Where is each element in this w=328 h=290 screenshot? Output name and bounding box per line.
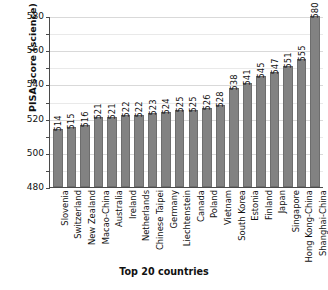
x-label-slot: Vietnam [213,190,227,258]
x-label-slot: Netherlands [132,190,146,258]
bar-value-label: 522 [121,97,130,123]
bar-value-label: 555 [297,40,306,66]
x-label-slot: Japan [268,190,282,258]
bar [216,105,225,187]
bar-slot: 521 [92,17,106,187]
y-axis-tick-label: 500 [18,149,44,158]
bar [53,129,62,187]
bar-slot: 547 [268,17,282,187]
bar-slot: 526 [200,17,214,187]
bar [175,110,184,187]
bar-value-label: 551 [284,47,293,73]
bar [148,113,157,187]
bar-value-label: 545 [256,57,265,83]
bar [229,88,238,187]
y-axis-tick-labels: 480500520540560580 [16,0,44,290]
bar [134,115,143,187]
bar-value-label: 525 [189,92,198,118]
bar-slot: 514 [51,17,65,187]
bar-slot: 541 [241,17,255,187]
bar-series: 5145155165215215225225235245255255265285… [50,17,323,187]
bar [161,112,170,187]
bar [310,16,319,187]
bar-value-label: 547 [270,54,279,80]
bar-value-label: 515 [67,109,76,135]
bar [270,72,279,187]
bar-slot: 524 [159,17,173,187]
y-axis-tick-label: 560 [18,46,44,55]
bar-slot: 555 [295,17,309,187]
bar-value-label: 516 [80,107,89,133]
bar [283,66,292,187]
bar-slot: 522 [119,17,133,187]
x-label-slot: New Zealand [77,190,91,258]
x-label-slot: Shanghai-China [308,190,322,258]
x-label-slot: Slovenia [50,190,64,258]
bar-slot: 528 [214,17,228,187]
bar-slot: 551 [281,17,295,187]
x-label-slot: Germany [159,190,173,258]
bar-slot: 525 [173,17,187,187]
bar-value-label: 523 [148,95,157,121]
bar [67,127,76,187]
x-label-slot: Liechtenstein [172,190,186,258]
bar-slot: 545 [254,17,268,187]
plot-area: 5145155165215215225225235245255255265285… [49,17,323,188]
bar-slot: 521 [105,17,119,187]
bar-value-label: 524 [162,93,171,119]
bar-value-label: 525 [175,92,184,118]
bar-slot: 580 [308,17,322,187]
y-axis-tick-mark [46,188,50,189]
bar [243,83,252,187]
bar [121,115,130,187]
bar [256,76,265,187]
x-label-slot: Finland [254,190,268,258]
x-label-slot: South Korea [227,190,241,258]
x-axis-tick-labels: SloveniaSwitzerlandNew ZealandMacao-Chin… [49,190,323,258]
x-label-slot: Switzerland [64,190,78,258]
x-label-slot: Canada [186,190,200,258]
bar-value-label: 522 [135,97,144,123]
bar-value-label: 521 [94,98,103,124]
y-axis-tick-label: 580 [18,12,44,21]
pisa-science-bar-chart: PISA score (science) 480500520540560580 … [0,0,328,290]
x-axis-title: Top 20 countries [0,266,328,277]
bar-slot: 516 [78,17,92,187]
x-label-slot: Chinese Taipei [145,190,159,258]
bar [107,117,116,187]
bar-slot: 522 [132,17,146,187]
y-axis-tick-label: 520 [18,115,44,124]
bar-slot: 538 [227,17,241,187]
bar-slot: 515 [65,17,79,187]
x-label-slot: Hong Kong-China [295,190,309,258]
bar [297,59,306,187]
x-axis-tick-label: Shanghai-China [319,190,328,256]
bar [80,125,89,187]
y-axis-tick-label: 480 [18,183,44,192]
bar-value-label: 580 [311,0,320,24]
x-label-slot: Singapore [281,190,295,258]
bar-value-label: 521 [107,98,116,124]
bar [202,108,211,187]
bar-value-label: 526 [202,90,211,116]
x-label-slot: Macao-China [91,190,105,258]
x-label-slot: Poland [200,190,214,258]
y-axis-tick-label: 540 [18,80,44,89]
bar-value-label: 528 [216,86,225,112]
bar [189,110,198,187]
bar-value-label: 514 [53,110,62,136]
bar-slot: 523 [146,17,160,187]
x-label-slot: Australia [104,190,118,258]
bar [94,117,103,187]
x-label-slot: Estonia [240,190,254,258]
bar-value-label: 538 [229,69,238,95]
bar-slot: 525 [186,17,200,187]
x-label-slot: Ireland [118,190,132,258]
bar-value-label: 541 [243,64,252,90]
